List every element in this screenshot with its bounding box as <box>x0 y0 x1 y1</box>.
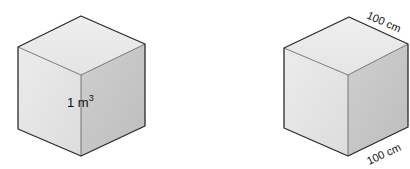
right-cube: 100 cm 100 cm <box>284 9 408 167</box>
left-cube: 1 m3 <box>18 16 145 156</box>
cube-comparison-diagram: 1 m3 100 cm 100 cm <box>0 0 410 169</box>
